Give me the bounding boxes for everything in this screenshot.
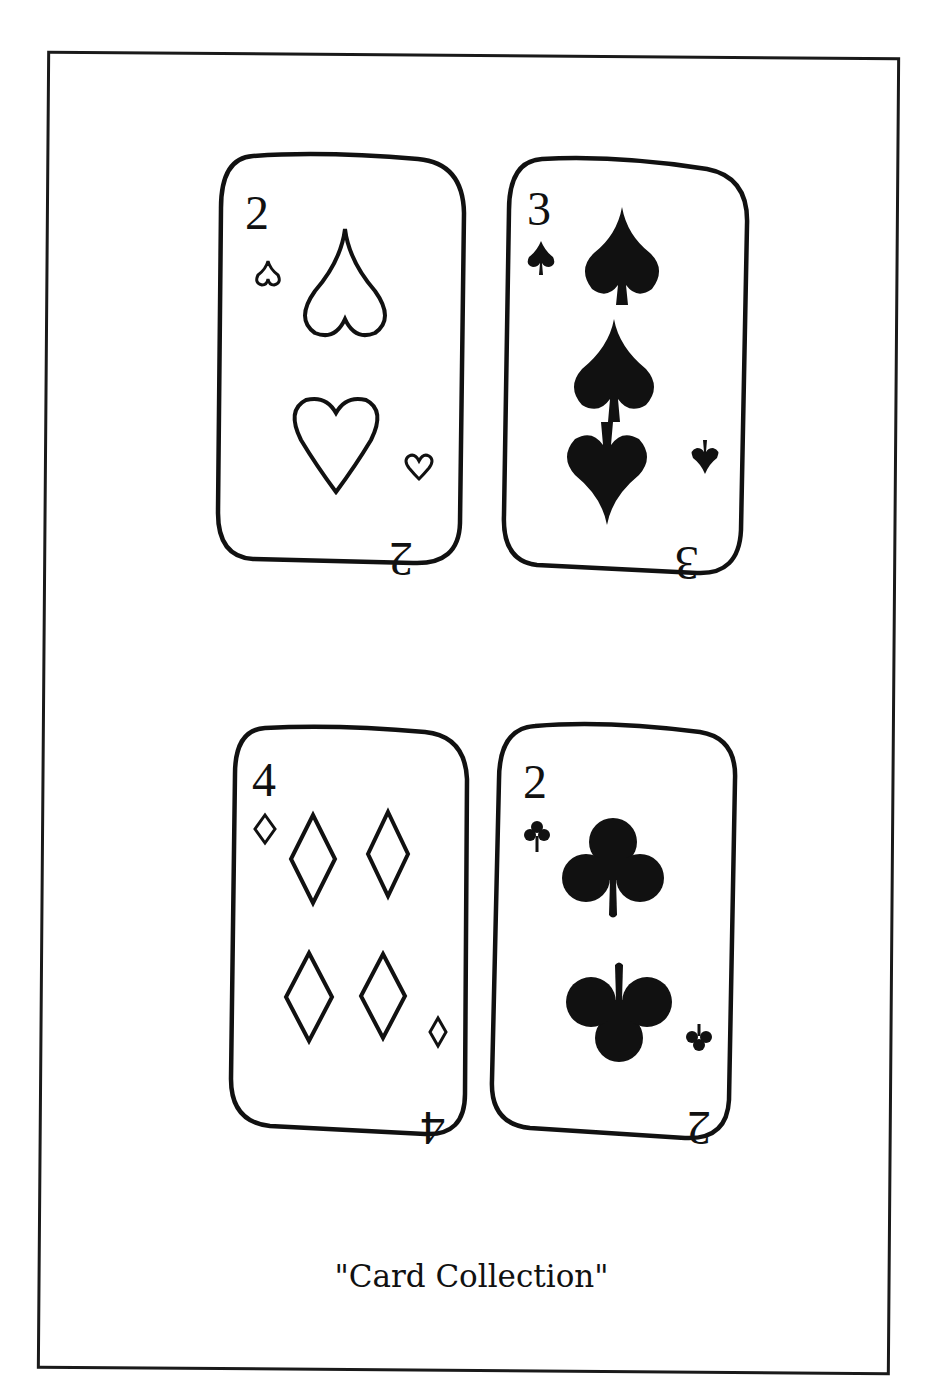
rank-bottom-right: 4 (421, 1102, 445, 1155)
rank-top-left: 2 (523, 755, 547, 808)
rank-top-left: 2 (245, 186, 269, 239)
drawing-frame (37, 51, 900, 1376)
rank-bottom-right: 2 (389, 533, 413, 586)
card-two-of-hearts: 2 2 (213, 153, 468, 568)
rank-top-left: 4 (252, 753, 276, 806)
card-three-of-spades: 3 3 (497, 155, 752, 580)
caption: "Card Collection" (0, 1258, 943, 1294)
rank-bottom-right: 2 (687, 1102, 711, 1155)
rank-top-left: 3 (527, 182, 551, 235)
card-four-of-diamonds: 4 4 (225, 724, 475, 1139)
card-two-of-clubs: 2 2 (485, 720, 740, 1145)
rank-bottom-right: 3 (675, 537, 699, 590)
